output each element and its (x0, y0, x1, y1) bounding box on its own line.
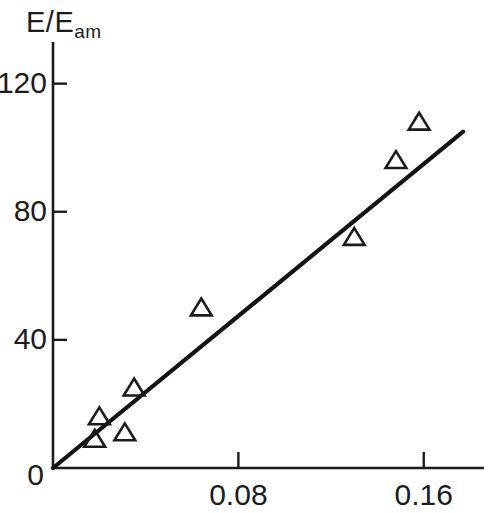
data-point-marker (409, 113, 430, 130)
x-tick-label: 0.08 (178, 480, 298, 510)
y-tick-label: 0 (14, 460, 44, 490)
data-point-marker (386, 151, 407, 168)
y-tick-label: 40 (0, 324, 47, 354)
axes-group (53, 42, 484, 468)
fit-line (53, 132, 463, 468)
x-tick-label: 0.16 (364, 480, 484, 510)
x-tick-marks (238, 452, 423, 468)
trend-line (53, 132, 463, 468)
data-markers (84, 113, 429, 447)
y-tick-label: 80 (0, 196, 47, 226)
data-point-marker (191, 298, 212, 315)
y-tick-label: 120 (0, 68, 47, 98)
chart-figure: E/Eam 04080120 0.080.16 (0, 0, 492, 513)
plot-area (0, 0, 492, 513)
data-point-marker (344, 228, 365, 245)
y-tick-marks (53, 84, 67, 340)
data-point-marker (114, 423, 135, 440)
